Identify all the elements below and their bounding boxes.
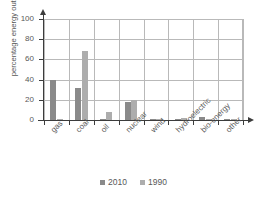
- chart-legend: 20101990: [0, 177, 267, 187]
- bar-oil-1990: [106, 112, 112, 120]
- y-tick-mark: [39, 19, 44, 20]
- gridline-vertical: [119, 19, 120, 120]
- arrow-up-icon: [40, 9, 46, 15]
- bar-nuclear-2010: [125, 102, 131, 120]
- legend-label: 1990: [148, 177, 167, 187]
- bar-coal-2010: [75, 88, 81, 120]
- legend-label: 2010: [108, 177, 127, 187]
- gridline-vertical: [69, 19, 70, 120]
- x-tick-label-gas: gas: [49, 119, 64, 134]
- x-tick-mark: [218, 121, 219, 125]
- x-tick-mark: [119, 121, 120, 125]
- gridline-vertical: [94, 19, 95, 120]
- legend-swatch-icon: [100, 180, 105, 185]
- gridline-vertical: [44, 19, 45, 120]
- y-tick-mark: [39, 59, 44, 60]
- bar-coal-1990: [82, 51, 88, 120]
- arrow-right-icon: [248, 117, 254, 123]
- gridline-vertical: [193, 19, 194, 120]
- gridline-vertical: [218, 19, 219, 120]
- y-tick-mark: [39, 39, 44, 40]
- y-tick-label: 0: [4, 115, 34, 124]
- y-tick-mark: [39, 80, 44, 81]
- x-tick-mark: [69, 121, 70, 125]
- x-tick-label-oil: oil: [99, 122, 111, 134]
- bar-chart: percentage energy output, % 020406080100…: [0, 0, 267, 197]
- legend-item-2010[interactable]: 2010: [100, 177, 127, 187]
- y-tick-mark: [39, 100, 44, 101]
- y-tick-label: 20: [4, 95, 34, 104]
- y-tick-label: 100: [4, 14, 34, 23]
- legend-item-1990[interactable]: 1990: [140, 177, 167, 187]
- x-tick-mark: [94, 121, 95, 125]
- y-axis-line: [43, 14, 44, 121]
- x-tick-mark: [44, 121, 45, 125]
- gridline-vertical: [144, 19, 145, 120]
- y-tick-label: 60: [4, 54, 34, 63]
- legend-swatch-icon: [140, 180, 145, 185]
- y-tick-label: 40: [4, 75, 34, 84]
- gridline-vertical: [168, 19, 169, 120]
- gridline-vertical: [243, 19, 244, 120]
- plot-area: [44, 19, 243, 120]
- x-tick-mark: [243, 121, 244, 125]
- bar-gas-2010: [50, 80, 56, 120]
- x-tick-mark: [193, 121, 194, 125]
- x-tick-mark: [144, 121, 145, 125]
- y-tick-label: 80: [4, 34, 34, 43]
- x-tick-mark: [168, 121, 169, 125]
